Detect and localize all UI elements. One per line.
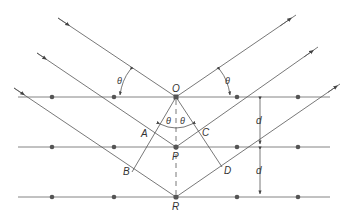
theta-reflected: θ [225,76,230,86]
label-p: P [172,151,179,162]
theta-inner-left: θ [166,116,171,126]
label-o: O [172,83,180,94]
spacing-d-lower: d [256,165,262,176]
label-d: D [224,165,231,176]
label-b: B [123,166,130,177]
theta-inner-right: θ [180,116,185,126]
theta-incident: θ [117,76,122,86]
label-a: A [140,128,148,139]
label-c: C [202,127,210,138]
incident-rays [14,18,176,197]
spacing-d-upper: d [256,115,262,126]
bragg-diffraction-diagram: O P R A B C D θ θ θ θ d d [0,0,359,220]
label-r: R [172,201,179,212]
